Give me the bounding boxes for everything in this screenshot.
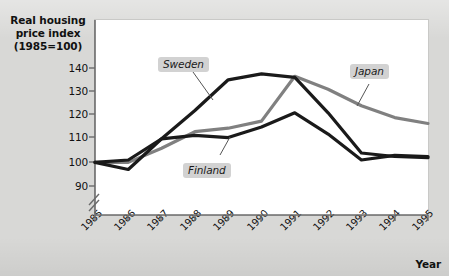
series-label-sweden: Sweden: [158, 57, 209, 72]
leader-line-finland: [220, 137, 230, 155]
y-tick-marks: [89, 68, 95, 186]
chart-svg: [0, 0, 449, 276]
leader-line-japan: [357, 84, 369, 106]
x-tick-marks: [95, 215, 428, 221]
leader-line-sweden: [193, 72, 213, 100]
series-label-japan: Japan: [350, 64, 389, 79]
y-axis-break-icon: [89, 194, 99, 211]
series-label-finland: Finland: [183, 163, 231, 178]
figure-container: Real housing price index (1985=100) Year…: [0, 0, 449, 276]
